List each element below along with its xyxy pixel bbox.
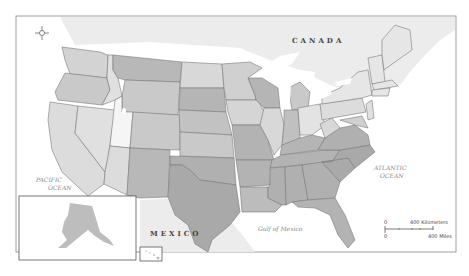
label-pacific-1: PACIFIC <box>35 176 62 183</box>
label-mexico: MEXICO <box>150 229 201 238</box>
hawaii-island <box>145 250 147 252</box>
label-atlantic-2: OCEAN <box>380 172 404 179</box>
us-map: CANADA MEXICO PACIFIC OCEAN ATLANTIC OCE… <box>0 0 469 276</box>
scale-mi-zero: 0 <box>384 233 387 239</box>
hawaii-island <box>157 257 160 260</box>
label-canada: CANADA <box>292 36 344 45</box>
scale-km-label: 400 Kilometers <box>410 219 448 225</box>
state-north-dakota <box>180 62 224 88</box>
state-iowa <box>226 100 264 125</box>
great-salt-lake <box>122 108 126 114</box>
state-wyoming <box>122 80 180 115</box>
state-kansas <box>180 132 234 158</box>
scale-km-zero: 0 <box>384 219 387 225</box>
scale-mi-label: 400 Miles <box>428 233 452 239</box>
state-colorado <box>130 112 180 150</box>
state-mississippi <box>268 167 286 205</box>
label-atlantic-1: ATLANTIC <box>373 164 407 171</box>
state-arkansas <box>236 160 272 187</box>
state-oregon <box>55 73 110 105</box>
state-south-dakota <box>179 88 226 112</box>
state-nebraska <box>179 110 232 135</box>
state-new-mexico <box>127 148 170 198</box>
label-gulf: Gulf of Mexico <box>258 225 303 233</box>
label-pacific-2: OCEAN <box>48 184 72 191</box>
hawaii-island <box>153 254 155 256</box>
hawaii-island <box>149 252 151 254</box>
